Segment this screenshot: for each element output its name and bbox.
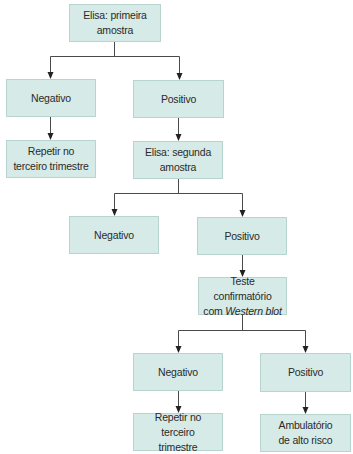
- node-text: Negativo: [31, 91, 71, 106]
- node-ambulatorio-alto-risco: Ambulatório de alto risco: [260, 414, 351, 452]
- node-repetir-terceiro-trimestre-2: Repetir no terceiro trimestre: [133, 413, 223, 451]
- node-positivo-2: Positivo: [197, 217, 287, 255]
- node-text-line2: com Western blot: [203, 304, 282, 319]
- node-positivo-1: Positivo: [133, 80, 224, 118]
- node-text-line1: Repetir no terceiro: [138, 410, 218, 440]
- node-text: Negativo: [158, 365, 198, 380]
- node-text: Positivo: [288, 365, 323, 380]
- node-text: Positivo: [224, 229, 259, 244]
- node-text-line2: terceiro trimestre: [13, 159, 88, 174]
- node-text-line2: amostra: [83, 23, 147, 38]
- node-text-line2: trimestre: [138, 440, 218, 454]
- node-text: Positivo: [161, 92, 196, 107]
- node-text: Negativo: [94, 228, 134, 243]
- node-text-line1: Ambulatório: [278, 418, 332, 433]
- node-text-line1: Repetir no: [13, 144, 88, 159]
- node-negativo-3: Negativo: [133, 353, 223, 391]
- node-text-line2: de alto risco: [278, 433, 332, 448]
- node-text-line1: Elisa: segunda: [145, 145, 211, 160]
- node-teste-confirmatorio: Teste confirmatório com Western blot: [198, 277, 287, 315]
- node-negativo-1: Negativo: [6, 79, 96, 117]
- node-text-prefix: com: [203, 305, 225, 317]
- node-text-line1: Teste confirmatório: [203, 274, 282, 304]
- node-elisa-primeira-amostra: Elisa: primeira amostra: [69, 4, 161, 42]
- node-elisa-segunda-amostra: Elisa: segunda amostra: [133, 141, 223, 179]
- node-negativo-2: Negativo: [69, 216, 159, 254]
- node-text-line2: amostra: [145, 160, 211, 175]
- node-repetir-terceiro-trimestre-1: Repetir no terceiro trimestre: [6, 140, 96, 178]
- node-text-italic: Western blot: [225, 305, 281, 317]
- node-text-line1: Elisa: primeira: [83, 8, 147, 23]
- node-positivo-3: Positivo: [260, 353, 351, 392]
